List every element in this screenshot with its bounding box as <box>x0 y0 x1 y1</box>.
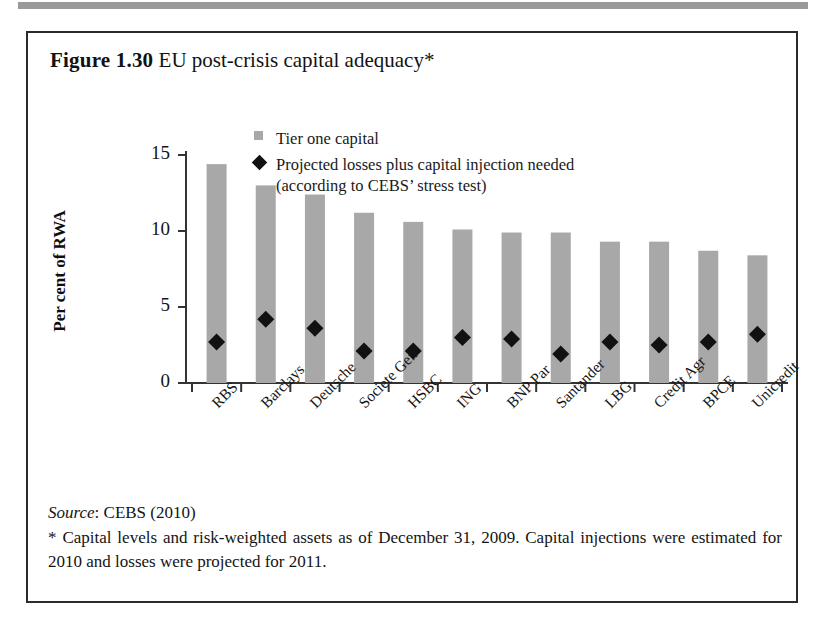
figure-caption-number: Figure 1.30 <box>50 48 153 72</box>
source-line: Source: CEBS (2010) <box>48 501 782 525</box>
source-label: Source <box>48 503 95 522</box>
x-axis-tick-label: BNP Par <box>503 361 554 412</box>
x-axis-tick-label: Barclays <box>257 361 308 412</box>
chart-diamond-marker <box>503 330 520 347</box>
chart-diamond-marker <box>356 343 373 360</box>
x-axis-tick-label: ING <box>453 380 485 412</box>
chart-diamond-marker <box>454 329 471 346</box>
x-axis-tick-label: Santander <box>552 355 609 412</box>
chart-bar <box>502 233 522 383</box>
chart-diamond-marker <box>552 346 569 363</box>
chart-diamond-marker <box>208 333 225 350</box>
chart-bar <box>649 242 669 383</box>
chart-bar <box>551 233 571 383</box>
chart-bar <box>354 213 374 383</box>
x-axis-tick-label: HSBC <box>404 370 445 411</box>
chart-bar <box>747 255 767 383</box>
y-axis-title: Per cent of RWA <box>50 191 70 351</box>
chart-bar <box>207 164 227 383</box>
legend-label-projected-losses-line2: (according to CEBS’ stress test) <box>276 175 574 196</box>
legend-item-tier-one-capital: Tier one capital <box>254 128 574 149</box>
chart-diamond-marker <box>257 311 274 328</box>
y-axis-tick-label: 5 <box>130 294 170 316</box>
chart-bar <box>305 195 325 383</box>
chart-diamond-marker <box>306 320 323 337</box>
page-edge-strip <box>18 2 808 9</box>
figure-container: Figure 1.30 EU post-crisis capital adequ… <box>26 31 798 603</box>
square-swatch-icon <box>254 128 276 140</box>
legend-item-projected-losses: Projected losses plus capital injection … <box>254 154 574 196</box>
y-axis-tick-label: 10 <box>130 218 170 240</box>
chart-bar <box>452 229 472 383</box>
y-axis-tick-label: 0 <box>130 370 170 392</box>
x-axis-tick-label: RBS <box>208 378 241 411</box>
legend-label-projected-losses-line1: Projected losses plus capital injection … <box>276 155 574 174</box>
figure-caption-title: EU post-crisis capital adequacy* <box>159 48 435 72</box>
source-value: : CEBS (2010) <box>95 503 196 522</box>
legend-label-tier-one-capital: Tier one capital <box>276 128 379 149</box>
chart-diamond-marker <box>651 337 668 354</box>
x-axis-tick-label: Deutsche <box>306 358 360 412</box>
chart-diamond-marker <box>749 326 766 343</box>
x-axis-tick-label: Credit Agr <box>650 352 709 411</box>
x-axis-tick-label: LBG <box>601 377 636 412</box>
figure-caption: Figure 1.30 EU post-crisis capital adequ… <box>50 48 434 73</box>
diamond-marker-icon <box>254 154 276 168</box>
y-axis-tick-label: 15 <box>130 142 170 164</box>
figure-footer: Source: CEBS (2010) * Capital levels and… <box>48 501 782 574</box>
x-axis-tick-label: Unicredit <box>748 358 802 412</box>
x-axis-tick-label: BPCE <box>699 372 739 412</box>
chart-bar <box>256 185 276 383</box>
page-edge-artifact <box>0 0 829 12</box>
footnote-line: * Capital levels and risk-weighted asset… <box>48 526 782 574</box>
legend-label-projected-losses: Projected losses plus capital injection … <box>276 154 574 196</box>
chart-diamond-marker <box>700 333 717 350</box>
chart-diamond-marker <box>601 333 618 350</box>
chart-legend: Tier one capital Projected losses plus c… <box>254 128 574 201</box>
